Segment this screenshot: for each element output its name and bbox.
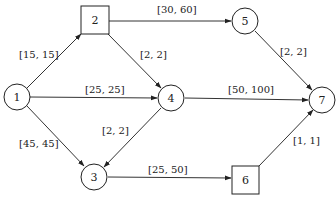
node-2: 2 bbox=[81, 6, 109, 34]
edge-label-4-3: [2, 2] bbox=[102, 125, 129, 136]
node-1-label: 1 bbox=[14, 91, 21, 104]
node-2-label: 2 bbox=[92, 14, 99, 27]
edge-label-2-5: [30, 60] bbox=[157, 4, 197, 15]
node-7-label: 7 bbox=[319, 94, 326, 107]
network-diagram: [15, 15] [25, 25] [45, 45] [30, 60] [2, … bbox=[0, 0, 336, 199]
node-3: 3 bbox=[81, 164, 107, 190]
edge-3-6 bbox=[108, 177, 231, 178]
edge-label-3-6: [25, 50] bbox=[148, 164, 188, 175]
edge-label-6-7: [1, 1] bbox=[293, 135, 320, 146]
edge-label-4-7: [50, 100] bbox=[228, 84, 274, 95]
edge-label-1-2: [15, 15] bbox=[19, 49, 59, 60]
edge-1-4 bbox=[30, 97, 157, 98]
edge-label-1-3: [45, 45] bbox=[19, 138, 59, 149]
node-7: 7 bbox=[309, 87, 335, 113]
node-5: 5 bbox=[232, 8, 258, 34]
node-4-label: 4 bbox=[168, 92, 175, 105]
edge-2-4 bbox=[108, 34, 161, 88]
node-3-label: 3 bbox=[91, 171, 98, 184]
node-1: 1 bbox=[4, 84, 30, 110]
edge-label-1-4: [25, 25] bbox=[85, 84, 125, 95]
edge-4-3 bbox=[104, 108, 161, 167]
node-6: 6 bbox=[232, 166, 259, 194]
edge-5-7 bbox=[255, 31, 312, 90]
node-4: 4 bbox=[158, 85, 184, 111]
edge-label-5-7: [2, 2] bbox=[280, 46, 307, 57]
node-5-label: 5 bbox=[242, 15, 249, 28]
edge-label-2-4: [2, 2] bbox=[140, 49, 167, 60]
edge-4-7 bbox=[185, 98, 308, 100]
edge-1-3 bbox=[27, 106, 84, 166]
node-6-label: 6 bbox=[242, 174, 249, 187]
edge-1-2 bbox=[27, 34, 81, 88]
